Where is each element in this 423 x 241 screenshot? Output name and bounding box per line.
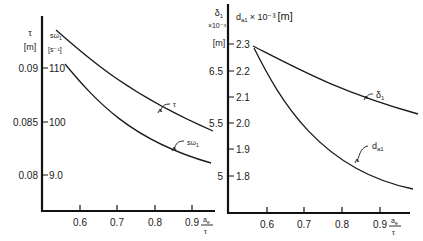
right-y1-unit: [m] [213, 38, 226, 48]
left-x-label: ae τ [201, 216, 213, 235]
left-y2-tick: 100 [49, 117, 66, 128]
right-y1-tick: 5 [217, 171, 223, 182]
right-y2-tick: 2.3 [236, 39, 250, 50]
tau-curve-label: τ [173, 101, 176, 108]
left-y1-label: τ [28, 28, 32, 38]
right-y1-multiplier: ×10⁻³ [208, 22, 227, 29]
left-y2-tick: 110 [49, 63, 65, 74]
right-x-tick: 0.9 [373, 219, 387, 230]
left-chart: τ [m] sω1 [s⁻¹] 0.09 0.085 0.08 110 100 … [13, 16, 215, 235]
left-x-tick: 0.9 [185, 217, 199, 228]
delta1-curve [253, 46, 418, 114]
right-x-tick: 0.7 [297, 219, 311, 230]
right-y1-tick: 5.5 [209, 118, 223, 129]
left-y2-unit: [s⁻¹] [48, 46, 62, 54]
right-y2-label: da1× 10⁻³[m] [236, 10, 293, 23]
svg-text:ae: ae [203, 216, 210, 225]
figure: τ [m] sω1 [s⁻¹] 0.09 0.085 0.08 110 100 … [0, 0, 423, 241]
left-y1-tick: 0.09 [19, 63, 39, 74]
left-y1-tick: 0.08 [19, 170, 39, 181]
right-x-label: ae τ [389, 217, 401, 236]
left-y1-unit: [m] [24, 42, 37, 52]
left-x-tick: 0.8 [148, 217, 162, 228]
right-chart: δ1 ×10⁻³ [m] da1× 10⁻³[m] 6.5 5.5 5 2.3 … [208, 4, 418, 236]
right-y2-tick: 1.9 [236, 144, 250, 155]
svg-text:τ: τ [204, 228, 207, 235]
right-x-tick: 0.6 [260, 219, 274, 230]
sw1-curve [65, 64, 211, 163]
left-y1-tick: 0.085 [13, 117, 38, 128]
sw1-curve-label: sω1 [187, 139, 199, 148]
right-y1-tick: 6.5 [209, 66, 223, 77]
right-y2-tick: 2.1 [236, 92, 250, 103]
right-y2-tick: 1.8 [236, 171, 250, 182]
left-x-tick: 0.6 [73, 217, 87, 228]
right-y2-tick: 2.0 [236, 118, 250, 129]
svg-text:ae: ae [391, 217, 398, 226]
svg-text:τ: τ [392, 229, 395, 236]
right-y1-label: δ1 [215, 8, 224, 19]
delta1-curve-label: δ1 [376, 90, 385, 101]
right-x-tick: 0.8 [335, 219, 349, 230]
left-x-tick: 0.7 [110, 217, 124, 228]
right-y2-tick: 2.2 [236, 66, 250, 77]
da1-curve [254, 48, 413, 189]
da1-curve-label: da1 [372, 141, 384, 152]
left-y2-tick: 9.0 [49, 170, 63, 181]
